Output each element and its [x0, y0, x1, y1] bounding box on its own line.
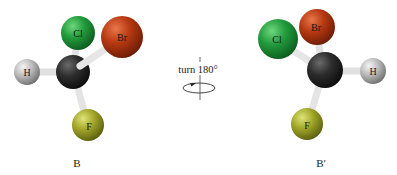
molecule-diagram: Cl H Br F B turn 180° Br Cl H F B′: [0, 0, 397, 175]
atom-carbon: [307, 52, 343, 88]
molecule-b-prime: Br Cl H F B′: [258, 9, 386, 169]
atom-label-br: Br: [311, 22, 322, 33]
caption-b: B: [73, 157, 80, 169]
atom-label-f: F: [86, 121, 92, 132]
atom-label-cl: Cl: [272, 34, 282, 45]
atom-label-h: H: [23, 67, 30, 78]
rotation-indicator: turn 180°: [170, 57, 226, 100]
molecule-b: Cl H Br F B: [14, 16, 143, 169]
rotation-arrow-ellipse: [183, 83, 215, 93]
atom-label-br: Br: [117, 32, 128, 43]
rotation-arrowhead-icon: [190, 83, 196, 87]
turn-label: turn 180°: [178, 64, 218, 75]
atom-label-cl: Cl: [73, 28, 83, 39]
caption-b-prime: B′: [316, 157, 326, 169]
atom-label-h: H: [369, 66, 376, 77]
atom-label-f: F: [304, 120, 310, 131]
